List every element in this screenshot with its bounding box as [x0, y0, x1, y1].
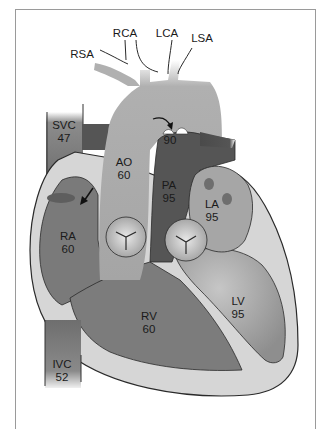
label-lv-name: LV	[231, 295, 245, 307]
label-svc-name: SVC	[52, 119, 76, 131]
label-lv-value: 95	[232, 308, 245, 320]
label-lsa: LSA	[191, 32, 213, 44]
rsa-branch	[94, 63, 140, 86]
ra-shading	[47, 193, 75, 203]
label-ductus-value: 90	[164, 134, 177, 146]
label-rv-value: 60	[143, 323, 156, 335]
label-la-value: 95	[206, 211, 219, 223]
label-rca: RCA	[113, 27, 138, 39]
label-pa-name: PA	[162, 179, 177, 191]
label-rsa: RSA	[70, 48, 94, 60]
label-ra-name: RA	[60, 230, 76, 242]
label-la-name: LA	[205, 198, 219, 210]
aortic-valve	[106, 217, 146, 257]
label-ra-value: 60	[62, 243, 75, 255]
label-ao-value: 60	[118, 169, 131, 181]
label-ivc-value: 52	[56, 371, 69, 383]
label-ao-name: AO	[116, 156, 133, 168]
label-svc-value: 47	[58, 132, 71, 144]
label-lca: LCA	[156, 27, 179, 39]
la-shading-2	[222, 193, 232, 205]
la-shading-1	[204, 178, 214, 190]
label-rv-name: RV	[141, 310, 157, 322]
label-ivc-name: IVC	[52, 358, 71, 370]
pulmonary-valve	[165, 219, 207, 261]
label-pa-value: 95	[163, 192, 176, 204]
